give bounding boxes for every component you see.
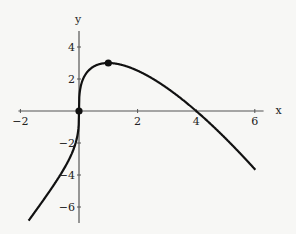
y-tick-label: −6 — [59, 201, 75, 214]
x-tick-label: 6 — [251, 115, 258, 128]
y-tick-label: −2 — [59, 137, 75, 150]
x-tick-label: 4 — [193, 115, 200, 128]
marked-point — [75, 107, 82, 114]
plot-area: −2246−6−4−224xy — [0, 0, 296, 234]
y-tick-label: −4 — [59, 169, 75, 182]
y-axis-label: y — [74, 13, 82, 26]
axis-labels: −2246−6−4−224xy — [12, 13, 282, 214]
chart: −2246−6−4−224xy — [0, 0, 296, 234]
x-axis-label: x — [276, 104, 283, 117]
y-tick-label: 2 — [68, 73, 75, 86]
marked-point — [105, 59, 112, 66]
y-tick-label: 4 — [68, 41, 75, 54]
x-tick-label: 2 — [134, 115, 141, 128]
x-tick-label: −2 — [12, 115, 28, 128]
